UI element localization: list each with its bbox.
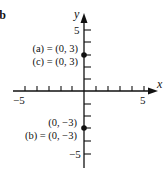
annotation-a: (a) = (0, 3) xyxy=(32,43,78,55)
y-axis-label: y xyxy=(73,7,80,21)
y-tick-label-pos5: 5 xyxy=(74,24,80,36)
x-axis-label: x xyxy=(156,77,163,91)
annotation-c: (c) = (0, 3) xyxy=(32,56,78,68)
x-tick-label-neg5: −5 xyxy=(13,94,25,106)
y-tick-label-neg5: −5 xyxy=(69,148,81,160)
y-axis-arrow-icon xyxy=(81,13,88,23)
point-0-neg3 xyxy=(81,125,87,131)
annotation-b-top: (0, −3) xyxy=(48,117,77,129)
point-0-3 xyxy=(81,52,87,58)
y-ticks xyxy=(84,30,91,154)
x-tick-label-pos5: 5 xyxy=(140,94,146,106)
annotation-b: (b) = (0, −3) xyxy=(25,130,78,142)
coordinate-plane: y x −5 5 5 −5 (a) = (0, 3) (c) = (0, 3) … xyxy=(0,0,166,171)
